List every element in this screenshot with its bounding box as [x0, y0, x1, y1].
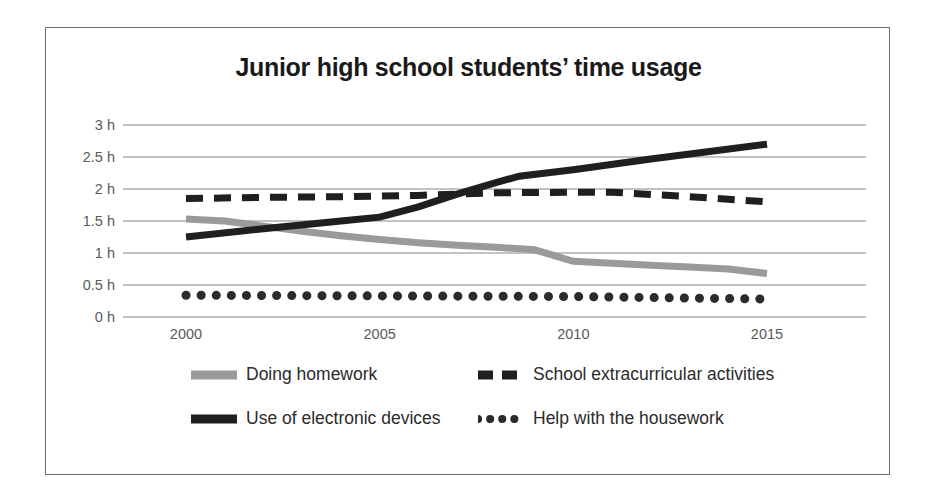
legend-swatch-dotted-icon	[478, 409, 524, 429]
y-axis-tick-label: 1 h	[55, 245, 115, 261]
legend-item[interactable]: Doing homework	[191, 364, 377, 385]
chart-page: Junior high school students’ time usage …	[0, 0, 928, 503]
legend-label: School extracurricular activities	[533, 364, 774, 385]
series-line	[186, 295, 767, 299]
x-axis-tick-label: 2000	[151, 326, 221, 342]
y-axis-tick-label: 0.5 h	[55, 277, 115, 293]
legend-label: Doing homework	[246, 364, 377, 385]
chart-frame: Junior high school students’ time usage …	[45, 27, 890, 475]
legend-swatch-solid-icon	[191, 365, 237, 385]
series-line	[186, 192, 767, 202]
legend-swatch-dashed-icon	[478, 365, 524, 385]
x-axis-tick-label: 2010	[538, 326, 608, 342]
legend-swatch-solid-icon	[191, 409, 237, 429]
x-axis-tick-label: 2005	[345, 326, 415, 342]
y-axis-tick-label: 2.5 h	[55, 149, 115, 165]
legend-item[interactable]: Use of electronic devices	[191, 408, 441, 429]
y-axis-tick-label: 0 h	[55, 309, 115, 325]
legend-item[interactable]: School extracurricular activities	[478, 364, 774, 385]
y-axis-tick-label: 2 h	[55, 181, 115, 197]
y-axis-tick-label: 1.5 h	[55, 213, 115, 229]
legend-label: Help with the housework	[533, 408, 724, 429]
x-axis-tick-label: 2015	[732, 326, 802, 342]
series-line	[186, 144, 767, 237]
legend-item[interactable]: Help with the housework	[478, 408, 724, 429]
chart-legend: Doing homeworkSchool extracurricular act…	[46, 364, 891, 454]
y-axis-tick-label: 3 h	[55, 117, 115, 133]
legend-label: Use of electronic devices	[246, 408, 441, 429]
